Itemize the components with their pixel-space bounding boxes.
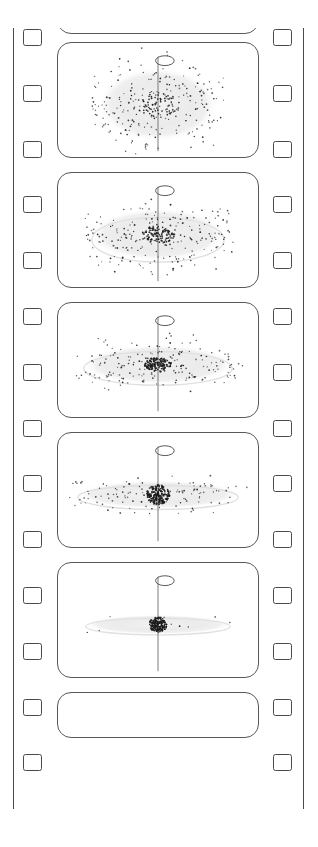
film-right-edge [303,28,304,809]
sprocket-hole [273,420,292,437]
sprocket-hole [23,364,42,381]
sprocket-hole [273,308,292,325]
sprocket-hole [23,308,42,325]
sprocket-hole [273,699,292,716]
sprocket-hole [23,475,42,492]
top-clip-band [0,0,318,28]
sprocket-hole [273,643,292,660]
sprocket-hole [273,754,292,771]
sprocket-hole [23,141,42,158]
sprocket-hole [273,531,292,548]
frame-4 [57,432,259,548]
film-strip [13,28,304,809]
simulation-plot [58,173,258,287]
sprocket-hole [23,420,42,437]
film-left-edge [13,28,14,809]
frame-1 [57,42,259,158]
simulation-plot [58,433,258,547]
frame-3 [57,302,259,418]
sprocket-hole [273,196,292,213]
frame-6-partial [57,692,259,738]
simulation-plot [58,303,258,417]
sprocket-hole [23,643,42,660]
frame-2 [57,172,259,288]
simulation-plot [58,43,258,157]
sprocket-hole [273,29,292,46]
sprocket-hole [273,252,292,269]
sprocket-hole [273,587,292,604]
sprocket-hole [23,196,42,213]
sprocket-hole [273,475,292,492]
sprocket-hole [273,141,292,158]
sprocket-hole [23,29,42,46]
sprocket-hole [23,252,42,269]
sprocket-hole [23,699,42,716]
bottom-clip-band [0,809,318,847]
sprocket-hole [23,85,42,102]
simulation-plot [58,563,258,677]
frame-5 [57,562,259,678]
sprocket-hole [23,754,42,771]
sprocket-hole [23,587,42,604]
sprocket-hole [273,364,292,381]
sprocket-hole [273,85,292,102]
sprocket-hole [23,531,42,548]
